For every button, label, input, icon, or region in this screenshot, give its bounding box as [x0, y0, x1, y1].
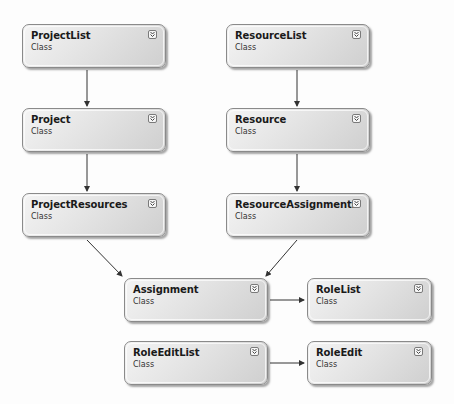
class-box-project[interactable]: Project Class — [22, 108, 166, 152]
double-chevron-down-icon[interactable] — [250, 347, 259, 356]
double-chevron-down-icon[interactable] — [148, 30, 157, 39]
class-kind-label: Class — [235, 212, 256, 221]
class-name: RoleEditList — [133, 347, 199, 358]
class-box-roleedit[interactable]: RoleEdit Class — [307, 341, 432, 385]
class-kind-label: Class — [31, 127, 52, 136]
double-chevron-down-icon[interactable] — [414, 347, 423, 356]
class-diagram-canvas: ProjectList Class ResourceList Class Pro… — [0, 0, 454, 404]
class-box-roleeditlist[interactable]: RoleEditList Class — [124, 341, 268, 385]
double-chevron-down-icon[interactable] — [352, 114, 361, 123]
class-name: RoleEdit — [316, 347, 362, 358]
class-box-assignment[interactable]: Assignment Class — [124, 278, 268, 322]
class-kind-label: Class — [133, 297, 154, 306]
double-chevron-down-icon[interactable] — [148, 114, 157, 123]
class-name: ProjectList — [31, 30, 90, 41]
class-box-resource[interactable]: Resource Class — [226, 108, 370, 152]
double-chevron-down-icon[interactable] — [352, 30, 361, 39]
class-name: Resource — [235, 114, 286, 125]
class-kind-label: Class — [235, 43, 256, 52]
class-name: ResourceAssignments — [235, 199, 358, 210]
class-kind-label: Class — [31, 43, 52, 52]
double-chevron-down-icon[interactable] — [250, 284, 259, 293]
class-kind-label: Class — [31, 212, 52, 221]
connector-projectresources-assignment — [87, 240, 122, 276]
class-kind-label: Class — [235, 127, 256, 136]
double-chevron-down-icon[interactable] — [352, 199, 361, 208]
class-name: Assignment — [133, 284, 198, 295]
class-kind-label: Class — [133, 360, 154, 369]
class-kind-label: Class — [316, 297, 337, 306]
class-box-projectlist[interactable]: ProjectList Class — [22, 24, 166, 68]
class-name: ResourceList — [235, 30, 306, 41]
class-name: ProjectResources — [31, 199, 127, 210]
class-box-rolelist[interactable]: RoleList Class — [307, 278, 432, 322]
class-box-projectresources[interactable]: ProjectResources Class — [22, 193, 166, 237]
class-box-resourceassignments[interactable]: ResourceAssignments Class — [226, 193, 370, 237]
double-chevron-down-icon[interactable] — [414, 284, 423, 293]
class-name: Project — [31, 114, 70, 125]
connector-resourceassignments-assignment — [266, 240, 297, 276]
class-box-resourcelist[interactable]: ResourceList Class — [226, 24, 370, 68]
class-name: RoleList — [316, 284, 361, 295]
class-kind-label: Class — [316, 360, 337, 369]
double-chevron-down-icon[interactable] — [148, 199, 157, 208]
